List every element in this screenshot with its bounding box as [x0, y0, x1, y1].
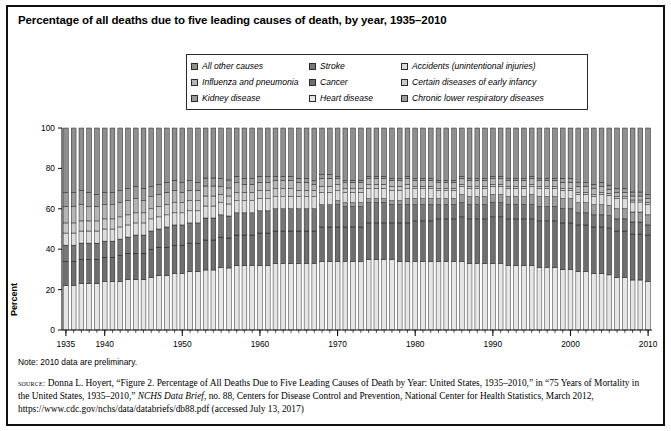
bar-segment [607, 216, 612, 228]
bar-segment [413, 128, 418, 179]
bar-segment [529, 185, 534, 187]
bar-segment [242, 185, 247, 193]
bar-segment [475, 128, 480, 179]
bar-segment [296, 231, 301, 263]
bar-segment [568, 199, 573, 209]
bar-segment [553, 197, 558, 207]
bar-column [95, 128, 100, 330]
bar-segment [622, 277, 627, 330]
bar-segment [584, 271, 589, 330]
bar-segment [195, 191, 200, 201]
bar-segment [320, 187, 325, 193]
bar-segment [545, 207, 550, 221]
bar-segment [514, 197, 519, 205]
bar-segment [475, 189, 480, 197]
bar-segment [428, 199, 433, 205]
bar-segment [126, 215, 131, 225]
bar-segment [126, 280, 131, 331]
bar-segment [79, 191, 84, 205]
bar-segment [180, 245, 185, 273]
bar-segment [281, 231, 286, 263]
bar-segment [126, 201, 131, 215]
bar-segment [615, 277, 620, 330]
bar-segment [428, 179, 433, 181]
bar-segment [390, 181, 395, 187]
bar-segment [71, 233, 76, 245]
bar-segment [312, 185, 317, 191]
bar-segment [646, 235, 651, 281]
bar-segment [630, 234, 635, 280]
bar-segment [444, 199, 449, 205]
bar-segment [141, 223, 146, 235]
bar-segment [498, 195, 503, 203]
bar-segment [615, 209, 620, 219]
bar-segment [630, 212, 635, 222]
bar-segment [358, 227, 363, 261]
chart-svg: 0204060801001935194019501960197019801990… [0, 118, 671, 358]
bar-segment [638, 212, 643, 222]
bar-segment [514, 205, 519, 219]
bar-segment [95, 207, 100, 221]
bar-segment [289, 197, 294, 209]
bar-segment [95, 243, 100, 259]
bar-segment [599, 128, 604, 183]
bar-segment [459, 217, 464, 261]
bar-segment [265, 128, 270, 176]
bar-segment [296, 179, 301, 183]
bar-column [335, 128, 340, 330]
bar-segment [126, 225, 131, 237]
bar-segment [219, 203, 224, 215]
bar-segment [195, 223, 200, 243]
bar-segment [343, 203, 348, 207]
bar-segment [133, 235, 138, 253]
bar-segment [304, 128, 309, 179]
bar-segment [529, 219, 534, 265]
bar-segment [646, 225, 651, 235]
bar-segment [118, 191, 123, 203]
bar-segment [638, 202, 643, 212]
bar-segment [428, 221, 433, 261]
legend-item-label: All other causes [202, 62, 263, 71]
bar-segment [584, 225, 589, 271]
bar-column [219, 128, 224, 330]
bar-segment [490, 263, 495, 330]
bar-segment [265, 265, 270, 330]
bar-segment [312, 197, 317, 209]
bar-segment [157, 195, 162, 207]
bar-segment [289, 189, 294, 197]
bar-segment [366, 185, 371, 189]
bar-segment [351, 203, 356, 207]
bar-segment [622, 231, 627, 277]
bar-segment [296, 209, 301, 231]
bar-segment [382, 185, 387, 189]
bar-segment [71, 193, 76, 207]
bar-segment [459, 195, 464, 203]
source-line-1: Donna L. Hoyert, “Figure 2. Percentage o… [45, 378, 558, 388]
bar-segment [475, 179, 480, 181]
bar-segment [490, 185, 495, 187]
bar-segment [436, 261, 441, 330]
bar-segment [584, 183, 589, 187]
bar-segment [622, 197, 627, 199]
bar-segment [149, 128, 154, 187]
bar-segment [397, 223, 402, 261]
bar-segment [452, 183, 457, 189]
legend-grid: All other causesStrokeAccidents (uninten… [187, 55, 587, 109]
bar-segment [576, 193, 581, 195]
bar-column [258, 128, 263, 330]
bar-segment [576, 187, 581, 193]
bar-column [157, 128, 162, 330]
bar-segment [289, 181, 294, 189]
bar-segment [87, 231, 92, 243]
bar-segment [102, 128, 107, 193]
bar-segment [343, 227, 348, 261]
x-axis-tick-label: 1990 [484, 339, 503, 349]
bar-segment [467, 263, 472, 330]
bar-segment [118, 217, 123, 227]
bar-segment [95, 195, 100, 207]
bar-segment [118, 203, 123, 217]
legend-item: All other causes [191, 62, 309, 71]
legend-item: Certain diseases of early infancy [401, 78, 591, 87]
bar-segment [638, 222, 643, 234]
bar-segment [568, 189, 573, 191]
